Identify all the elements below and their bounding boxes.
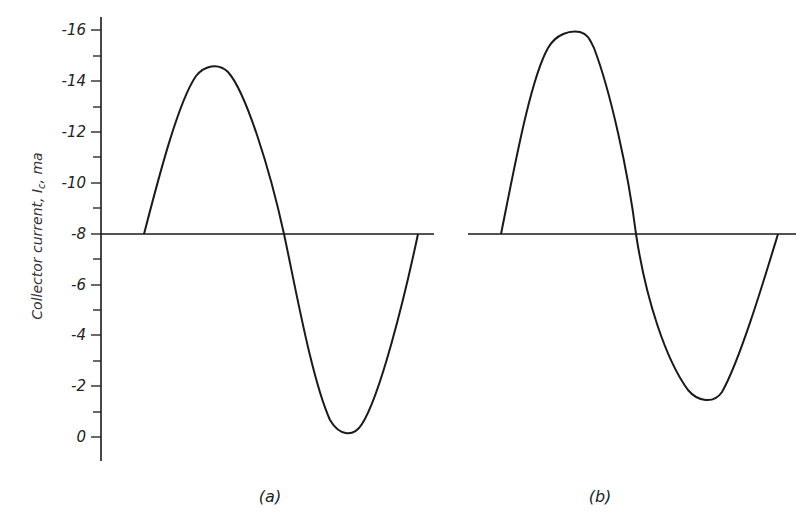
panel-a: (a) xyxy=(101,66,434,506)
panel-b: (b) xyxy=(468,32,796,506)
waveform-b xyxy=(501,32,778,401)
panel-label-b: (b) xyxy=(589,487,612,506)
figure: -16 -14 -12 -10 -8 -6 -4 -2 0 Collector … xyxy=(0,0,807,528)
y-axis: -16 -14 -12 -10 -8 -6 -4 -2 0 Collector … xyxy=(29,17,101,461)
tick-label: -2 xyxy=(71,377,86,395)
tick-label: -6 xyxy=(71,276,86,294)
tick-label: -12 xyxy=(62,123,87,141)
y-tick-labels: -16 -14 -12 -10 -8 -6 -4 -2 0 xyxy=(62,21,87,446)
tick-label: -4 xyxy=(71,326,86,344)
tick-label: -8 xyxy=(71,225,86,243)
tick-label: -10 xyxy=(62,174,87,192)
y-axis-title: Collector current, Ic, ma xyxy=(29,152,47,319)
tick-label: 0 xyxy=(76,428,86,446)
tick-label: -16 xyxy=(62,21,87,39)
panel-label-a: (a) xyxy=(259,487,281,506)
y-axis-ticks xyxy=(91,30,101,437)
waveform-a xyxy=(144,66,418,433)
tick-label: -14 xyxy=(62,72,87,90)
